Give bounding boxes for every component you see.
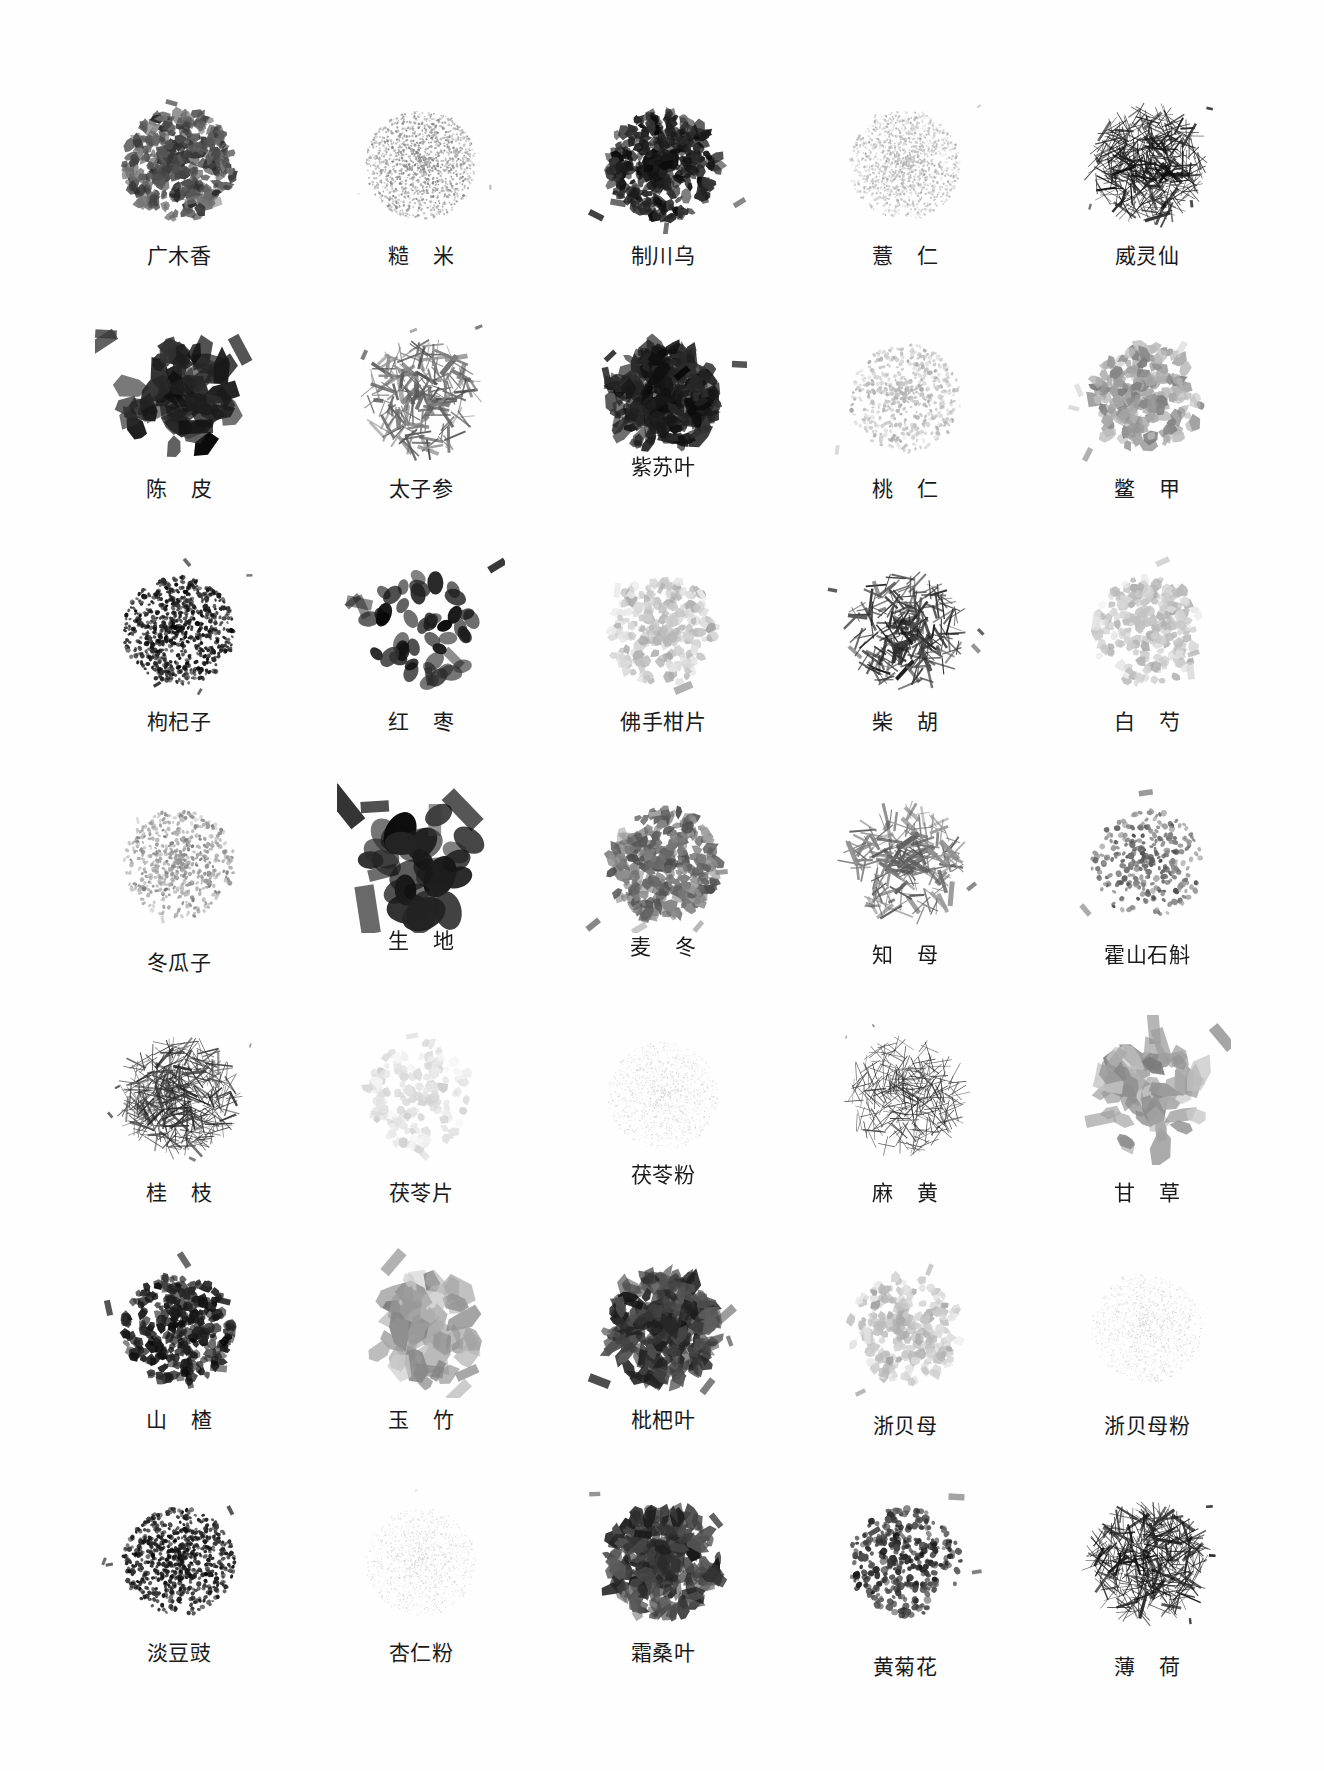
specimen-photo xyxy=(1063,1481,1231,1631)
specimen-label: 茯苓粉 xyxy=(631,1165,696,1186)
specimen-cell: 杏仁粉 xyxy=(300,1475,542,1708)
specimen-cell: 威灵仙 xyxy=(1026,78,1268,311)
specimen-photo xyxy=(95,1248,263,1398)
specimen-cell: 糙 米 xyxy=(300,78,542,311)
specimen-photo xyxy=(579,84,747,234)
specimen-cell: 红 枣 xyxy=(300,544,542,777)
specimen-label: 黄菊花 xyxy=(873,1657,938,1678)
specimen-cell: 甘 草 xyxy=(1026,1009,1268,1242)
specimen-label: 甘 草 xyxy=(1105,1183,1190,1204)
specimen-photo xyxy=(337,783,505,933)
specimen-label: 麦 冬 xyxy=(621,937,706,958)
specimen-label: 陈 皮 xyxy=(137,479,222,500)
specimen-photo xyxy=(821,1015,989,1165)
specimen-cell: 柴 胡 xyxy=(784,544,1026,777)
specimen-cell: 佛手柑片 xyxy=(542,544,784,777)
specimen-cell: 薏 仁 xyxy=(784,78,1026,311)
specimen-photo xyxy=(95,1481,263,1631)
specimen-photo xyxy=(95,783,263,933)
specimen-cell: 冬瓜子 xyxy=(58,777,300,1010)
specimen-label: 麻 黄 xyxy=(863,1183,948,1204)
specimen-label: 红 枣 xyxy=(379,712,464,733)
specimen-photo xyxy=(821,783,989,933)
specimen-photo xyxy=(1063,1015,1231,1165)
specimen-photo xyxy=(1063,84,1231,234)
specimen-photo xyxy=(95,317,263,467)
specimen-cell: 霜桑叶 xyxy=(542,1475,784,1708)
specimen-label: 糙 米 xyxy=(379,246,464,267)
specimen-cell: 桂 枝 xyxy=(58,1009,300,1242)
specimen-photo xyxy=(821,317,989,467)
specimen-label: 知 母 xyxy=(863,945,948,966)
specimen-grid: 广木香糙 米制川乌薏 仁威灵仙陈 皮太子参紫苏叶桃 仁鳖 甲枸杞子红 枣佛手柑片… xyxy=(58,78,1268,1708)
specimen-cell: 生 地 xyxy=(300,777,542,1010)
specimen-label: 浙贝母 xyxy=(873,1416,938,1437)
specimen-label: 薏 仁 xyxy=(863,246,948,267)
specimen-cell: 茯苓粉 xyxy=(542,1009,784,1242)
specimen-label: 紫苏叶 xyxy=(631,457,696,478)
specimen-cell: 黄菊花 xyxy=(784,1475,1026,1708)
specimen-label: 玉 竹 xyxy=(379,1410,464,1431)
specimen-photo xyxy=(579,550,747,700)
specimen-label: 淡豆豉 xyxy=(147,1643,212,1664)
specimen-cell: 麦 冬 xyxy=(542,777,784,1010)
specimen-photo xyxy=(579,783,747,933)
specimen-label: 桂 枝 xyxy=(137,1183,222,1204)
specimen-photo xyxy=(337,550,505,700)
specimen-cell: 浙贝母粉 xyxy=(1026,1242,1268,1475)
specimen-cell: 知 母 xyxy=(784,777,1026,1010)
specimen-label: 佛手柑片 xyxy=(620,712,706,733)
specimen-label: 生 地 xyxy=(379,931,464,952)
specimen-cell: 太子参 xyxy=(300,311,542,544)
specimen-cell: 麻 黄 xyxy=(784,1009,1026,1242)
specimen-label: 霜桑叶 xyxy=(631,1643,696,1664)
specimen-cell: 枸杞子 xyxy=(58,544,300,777)
specimen-cell: 桃 仁 xyxy=(784,311,1026,544)
specimen-cell: 枇杷叶 xyxy=(542,1242,784,1475)
specimen-label: 杏仁粉 xyxy=(389,1643,454,1664)
specimen-label: 茯苓片 xyxy=(389,1183,454,1204)
specimen-label: 太子参 xyxy=(389,479,454,500)
specimen-cell: 鳖 甲 xyxy=(1026,311,1268,544)
specimen-label: 威灵仙 xyxy=(1115,246,1180,267)
specimen-photo xyxy=(579,1015,747,1165)
specimen-label: 浙贝母粉 xyxy=(1104,1416,1190,1437)
specimen-label: 山 楂 xyxy=(137,1410,222,1431)
specimen-photo xyxy=(821,550,989,700)
specimen-label: 广木香 xyxy=(147,246,212,267)
specimen-cell: 白 芍 xyxy=(1026,544,1268,777)
specimen-cell: 山 楂 xyxy=(58,1242,300,1475)
specimen-photo xyxy=(579,1248,747,1398)
specimen-label: 霍山石斛 xyxy=(1104,945,1190,966)
specimen-label: 冬瓜子 xyxy=(147,953,212,974)
specimen-photo xyxy=(337,1248,505,1398)
specimen-photo xyxy=(821,1481,989,1631)
specimen-photo xyxy=(821,84,989,234)
specimen-photo xyxy=(821,1248,989,1398)
specimen-photo xyxy=(1063,1248,1231,1398)
specimen-label: 鳖 甲 xyxy=(1105,479,1190,500)
specimen-photo xyxy=(579,1481,747,1631)
specimen-cell: 薄 荷 xyxy=(1026,1475,1268,1708)
specimen-label: 柴 胡 xyxy=(863,712,948,733)
specimen-photo xyxy=(95,550,263,700)
specimen-label: 枇杷叶 xyxy=(631,1410,696,1431)
specimen-plate: 广木香糙 米制川乌薏 仁威灵仙陈 皮太子参紫苏叶桃 仁鳖 甲枸杞子红 枣佛手柑片… xyxy=(0,0,1324,1771)
specimen-photo xyxy=(95,84,263,234)
specimen-cell: 淡豆豉 xyxy=(58,1475,300,1708)
specimen-label: 枸杞子 xyxy=(147,712,212,733)
specimen-photo xyxy=(579,317,747,467)
specimen-photo xyxy=(337,317,505,467)
specimen-photo xyxy=(1063,317,1231,467)
specimen-label: 薄 荷 xyxy=(1105,1657,1190,1678)
specimen-photo xyxy=(337,1481,505,1631)
specimen-cell: 玉 竹 xyxy=(300,1242,542,1475)
specimen-cell: 茯苓片 xyxy=(300,1009,542,1242)
specimen-cell: 制川乌 xyxy=(542,78,784,311)
specimen-label: 白 芍 xyxy=(1105,712,1190,733)
specimen-photo xyxy=(95,1015,263,1165)
specimen-photo xyxy=(337,84,505,234)
specimen-cell: 霍山石斛 xyxy=(1026,777,1268,1010)
specimen-photo xyxy=(1063,550,1231,700)
specimen-photo xyxy=(337,1015,505,1165)
